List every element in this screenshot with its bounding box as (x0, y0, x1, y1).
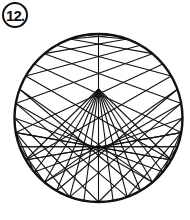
string-art-heart-diagram (0, 0, 190, 220)
